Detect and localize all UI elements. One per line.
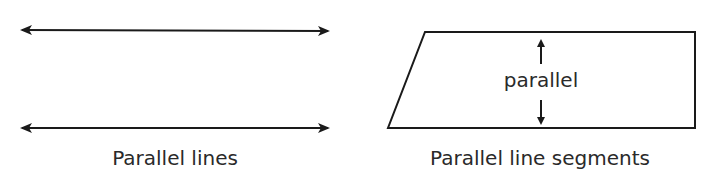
parallel-label: parallel: [504, 68, 578, 92]
top-line: [22, 30, 328, 31]
parallel-segments-caption: Parallel line segments: [430, 146, 650, 170]
parallel-lines-figure: [22, 30, 328, 128]
parallel-lines-caption: Parallel lines: [112, 146, 238, 170]
